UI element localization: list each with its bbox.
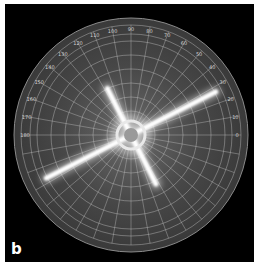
center-hub	[109, 113, 153, 157]
angle-label: 70	[164, 32, 170, 38]
angle-label: 90	[128, 26, 134, 32]
angle-label: 170	[22, 114, 32, 120]
angle-label: 0	[235, 132, 238, 138]
angle-label: 30	[220, 79, 226, 85]
polar-display: 0102030405060708090100110120130140150160…	[0, 0, 259, 270]
angle-label: 160	[27, 96, 37, 102]
angle-label: 110	[90, 32, 100, 38]
angle-label: 120	[73, 40, 83, 46]
hub-core	[124, 128, 138, 142]
angle-label: 10	[232, 114, 238, 120]
angle-label: 40	[209, 64, 215, 70]
angle-label: 100	[108, 28, 118, 34]
angle-label: 80	[146, 28, 152, 34]
angle-label: 140	[45, 64, 55, 70]
angle-label: 180	[20, 132, 30, 138]
panel-label: b	[11, 240, 22, 258]
angle-label: 20	[227, 96, 233, 102]
angle-label: 60	[181, 40, 187, 46]
angle-label: 150	[34, 79, 44, 85]
angle-label: 130	[58, 51, 68, 57]
angle-label: 50	[196, 51, 202, 57]
